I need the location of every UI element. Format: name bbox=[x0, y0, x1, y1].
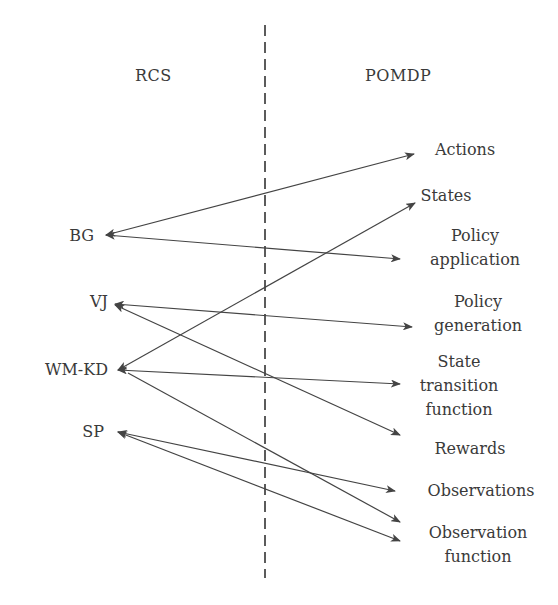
pomdp-label-observation-function: Observation function bbox=[413, 521, 543, 569]
arrow-bg-policy-application bbox=[106, 235, 400, 259]
arrow-wmkd-state-transition bbox=[118, 370, 400, 384]
pomdp-header: POMDP bbox=[365, 66, 431, 85]
rcs-label-bg: BG bbox=[14, 224, 94, 248]
rcs-label-sp: SP bbox=[24, 420, 104, 444]
pomdp-label-policy-application: Policy application bbox=[410, 224, 540, 272]
pomdp-label-states: States bbox=[381, 184, 511, 208]
arrow-wmkd-states bbox=[118, 203, 415, 370]
arrow-sp-observation-function bbox=[118, 432, 400, 541]
arrow-wmkd-observation-function bbox=[128, 373, 400, 522]
arrow-vj-rewards bbox=[115, 305, 400, 435]
pomdp-label-actions: Actions bbox=[400, 138, 530, 162]
rcs-label-vj: VJ bbox=[28, 290, 108, 314]
arrow-vj-policy-generation bbox=[115, 304, 412, 327]
pomdp-label-rewards: Rewards bbox=[405, 437, 535, 461]
arrow-sp-observations bbox=[118, 432, 395, 491]
rcs-label-wm-kd: WM-KD bbox=[28, 358, 108, 382]
rcs-header: RCS bbox=[135, 66, 172, 85]
pomdp-label-policy-generation: Policy generation bbox=[413, 290, 543, 338]
pomdp-label-observations: Observations bbox=[416, 479, 546, 503]
arrow-bg-actions bbox=[106, 154, 414, 235]
pomdp-label-state-transition-function: State transition function bbox=[394, 350, 524, 422]
